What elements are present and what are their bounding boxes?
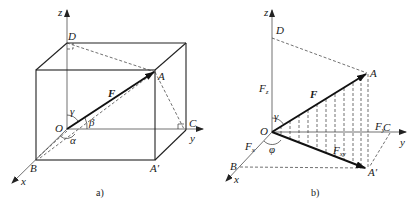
label-B-b: B [230,160,237,172]
label-z: z [57,6,63,18]
dashed-DA [67,43,155,72]
label-D-b: D [275,24,284,36]
figure-b: z D A A′ C y O B x F γ φ Fz Fy Fx Fxy b) [226,6,406,199]
label-F: F [107,87,116,99]
box-edge [36,43,67,70]
label-y-b: y [399,136,405,148]
label-x-b: x [233,173,239,185]
dashed-CA-prime [370,133,390,166]
projection-hatch [281,74,368,168]
label-y: y [189,132,195,144]
label-O-b: O [260,125,268,137]
label-phi: φ [269,143,275,155]
label-Fx: Fx [244,140,256,154]
box-edge [155,43,186,70]
label-beta: β [88,116,95,128]
label-B: B [30,162,37,174]
box-edge [155,130,186,160]
label-alpha: α [70,134,76,146]
label-O: O [55,122,63,134]
label-A: A [157,70,165,82]
label-Fz: Fz [258,82,269,96]
force-decomposition-diagram: z D A C y O B A′ x F γ β α a) [0,0,414,205]
label-C: C [189,117,197,129]
caption-a: a) [96,187,104,199]
dashed-DA-b [272,38,367,73]
force-F-b [272,74,366,132]
label-A-b: A [369,67,377,79]
label-D: D [67,30,76,42]
label-x: x [20,175,26,187]
caption-b: b) [311,187,319,199]
label-F-b: F [309,88,318,100]
figure-a: z D A C y O B A′ x F γ β α a) [12,6,203,199]
label-A-prime-b: A′ [367,166,378,178]
label-gamma-b: γ [274,110,279,122]
dashed-BA [40,74,152,158]
label-Fxy: Fxy [332,144,347,158]
label-z-b: z [263,6,269,18]
label-gamma: γ [70,105,75,117]
label-A-prime: A′ [149,162,160,174]
dashed-BA-prime [240,167,366,168]
force-Fxy [272,132,365,168]
force-F [67,72,154,129]
right-angle-D [67,43,73,49]
